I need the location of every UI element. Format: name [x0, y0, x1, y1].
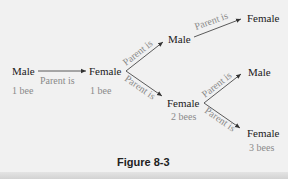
count-label: 2 bees — [171, 112, 196, 122]
count-label: 1 bee — [12, 86, 33, 96]
node-male-gen3: Male — [248, 67, 271, 78]
edge-label: Parent is — [199, 69, 233, 99]
node-female-gen3-top: Female — [247, 13, 279, 24]
node-female-gen2: Female — [167, 98, 199, 109]
edges-layer: Parent is Parent is Parent is Parent is … — [0, 0, 288, 179]
bottom-band — [0, 172, 288, 179]
edge-label: Parent is — [203, 105, 238, 134]
node-male-gen2: Male — [168, 34, 191, 45]
figure-caption: Figure 8-3 — [117, 157, 170, 168]
node-male-root: Male — [12, 66, 35, 77]
edge-label: Parent is — [40, 75, 75, 86]
edge-label: Parent is — [193, 10, 229, 32]
node-female-gen1: Female — [89, 66, 121, 77]
edge-label: Parent is — [123, 73, 158, 102]
node-female-gen3-bottom: Female — [247, 128, 279, 139]
count-label: 3 bees — [249, 143, 274, 153]
family-tree-diagram: Parent is Parent is Parent is Parent is … — [0, 0, 288, 179]
count-label: 1 bee — [90, 86, 111, 96]
